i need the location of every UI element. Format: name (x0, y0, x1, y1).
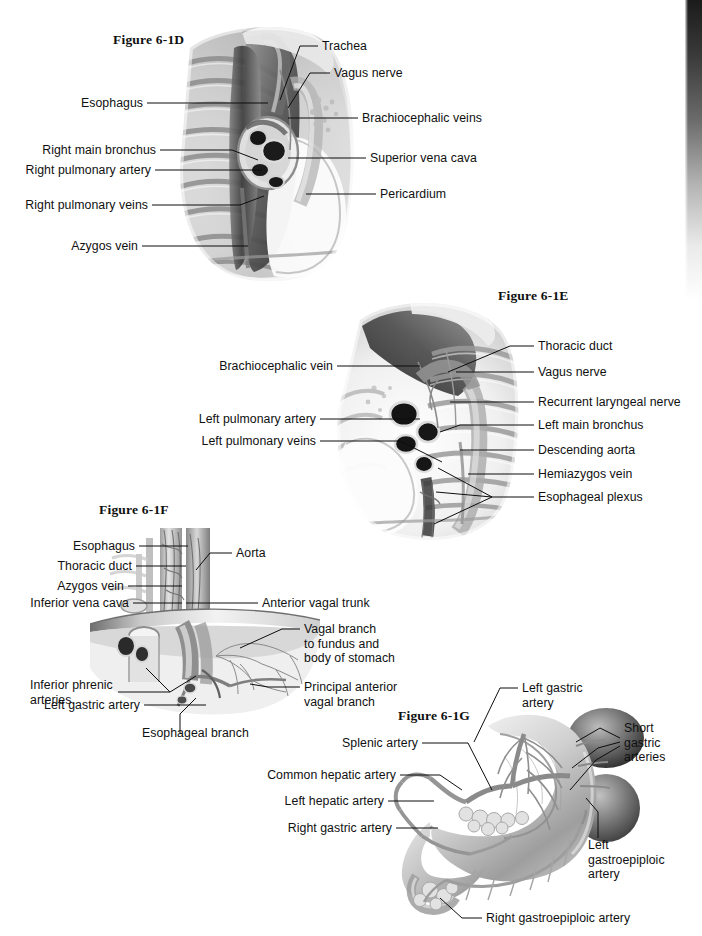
label-left-gastric-artery-f: Left gastric artery (10, 698, 140, 713)
label-splenic-artery: Splenic artery (280, 736, 418, 751)
figure-heading-6-1d: Figure 6-1D (113, 32, 184, 48)
label-common-hepatic-artery: Common hepatic artery (240, 768, 396, 783)
label-pericardium: Pericardium (380, 187, 446, 202)
label-right-pulmonary-artery: Right pulmonary artery (0, 163, 151, 178)
label-left-hepatic-artery: Left hepatic artery (250, 794, 384, 809)
label-short-gastric-line2: gastric (624, 736, 700, 751)
label-vagal-branch-line1: Vagal branch (304, 622, 424, 637)
label-esophagus-f: Esophagus (10, 539, 135, 554)
label-right-main-bronchus: Right main bronchus (0, 143, 156, 158)
figure-heading-6-1f: Figure 6-1F (99, 502, 169, 518)
illustration-figure-6-1e (300, 292, 550, 542)
label-left-gastroepiploic-line1: Left (588, 838, 692, 853)
label-right-gastroepiploic-artery: Right gastroepiploic artery (486, 911, 630, 926)
label-left-gastroepiploic-line3: artery (588, 867, 692, 882)
label-hemiazygos-vein: Hemiazygos vein (538, 467, 632, 482)
label-left-main-bronchus: Left main bronchus (538, 418, 643, 433)
label-left-gastroepiploic-artery: Left gastroepiploic artery (588, 838, 692, 882)
label-left-gastric-artery-g: Left gastric artery (522, 681, 612, 710)
label-left-gastric-line2: artery (522, 696, 612, 711)
label-esophageal-branch: Esophageal branch (142, 726, 249, 741)
label-vagus-nerve: Vagus nerve (334, 66, 403, 81)
figure-heading-6-1g: Figure 6-1G (398, 708, 470, 724)
label-principal-anterior-vagal-branch: Principal anterior vagal branch (304, 680, 434, 709)
label-thoracic-duct-f: Thoracic duct (10, 559, 132, 574)
label-inferior-vena-cava: Inferior vena cava (6, 596, 129, 611)
label-vagal-branch-line3: body of stomach (304, 651, 424, 666)
label-left-gastroepiploic-line2: gastroepiploic (588, 853, 692, 868)
label-principal-anterior-line1: Principal anterior (304, 680, 434, 695)
label-short-gastric-arteries: Short gastric arteries (624, 721, 700, 765)
label-brachiocephalic-veins: Brachiocephalic veins (362, 111, 482, 126)
label-brachiocephalic-vein: Brachiocephalic vein (190, 359, 333, 374)
label-trachea: Trachea (322, 39, 367, 54)
label-vagal-branch-fundus: Vagal branch to fundus and body of stoma… (304, 622, 424, 666)
page-edge-shadow (685, 0, 702, 300)
label-azygos-vein-f: Azygos vein (10, 579, 124, 594)
label-aorta: Aorta (236, 546, 266, 561)
label-principal-anterior-line2: vagal branch (304, 695, 434, 710)
label-esophageal-plexus: Esophageal plexus (538, 490, 643, 505)
label-azygos-vein: Azygos vein (0, 239, 138, 254)
figure-heading-6-1e: Figure 6-1E (498, 288, 569, 304)
label-superior-vena-cava: Superior vena cava (370, 151, 477, 166)
label-left-pulmonary-artery: Left pulmonary artery (175, 412, 316, 427)
label-left-gastric-line1: Left gastric (522, 681, 612, 696)
label-right-gastric-artery: Right gastric artery (250, 821, 392, 836)
illustration-figure-6-1d (150, 18, 380, 288)
label-vagal-branch-line2: to fundus and (304, 637, 424, 652)
label-vagus-nerve-e: Vagus nerve (538, 365, 607, 380)
label-esophagus: Esophagus (0, 96, 143, 111)
label-short-gastric-line3: arteries (624, 750, 700, 765)
label-thoracic-duct: Thoracic duct (538, 339, 612, 354)
anatomy-plate-page: Figure 6-1D Figure 6-1E Figure 6-1F Figu… (0, 0, 702, 936)
label-short-gastric-line1: Short (624, 721, 700, 736)
label-right-pulmonary-veins: Right pulmonary veins (0, 198, 148, 213)
label-descending-aorta: Descending aorta (538, 443, 635, 458)
label-left-pulmonary-veins: Left pulmonary veins (175, 434, 316, 449)
label-anterior-vagal-trunk: Anterior vagal trunk (262, 596, 370, 611)
label-recurrent-laryngeal-nerve: Recurrent laryngeal nerve (538, 395, 681, 410)
label-inferior-phrenic-line1: Inferior phrenic (30, 678, 140, 693)
